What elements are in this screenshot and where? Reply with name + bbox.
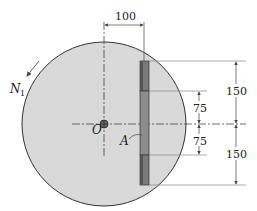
dim-offset-label: 100 bbox=[115, 10, 136, 23]
rotation-arrow bbox=[27, 61, 39, 76]
strip-middle bbox=[140, 91, 149, 155]
dim-lower-outer-label: 150 bbox=[226, 148, 247, 161]
center-label-o: O bbox=[92, 123, 102, 137]
dim-upper-inner-label: 75 bbox=[193, 102, 207, 115]
strip-label-a: A bbox=[119, 134, 129, 148]
dim-upper-outer-label: 150 bbox=[226, 85, 247, 98]
disc-diagram: 100 150 150 75 75 O A N 1 bbox=[0, 0, 257, 211]
dim-lower-inner-label: 75 bbox=[193, 135, 207, 148]
rotation-label-subscript: 1 bbox=[20, 89, 25, 98]
